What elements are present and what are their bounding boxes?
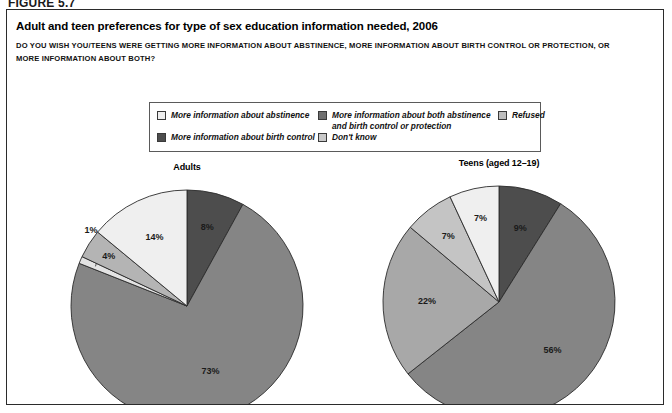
pie-slice-label: 22% (418, 296, 436, 306)
pie-slice-label: 14% (145, 232, 163, 242)
pie-svg (379, 182, 619, 405)
pie-slice-callout-label: 1% (84, 225, 97, 235)
pie-slice-label: 56% (544, 345, 562, 355)
pie-slice-label: 8% (201, 222, 214, 232)
legend-item-refused: Refused (498, 110, 545, 121)
legend-label-dont-know: Don't know (332, 132, 376, 143)
legend-swatch-birth-control (157, 133, 166, 142)
pie-chart-teens: Teens (aged 12–19) 9%56%22%7%7% (379, 158, 619, 405)
legend-label-birth-control: More information about birth control (171, 132, 315, 143)
pie-canvas-adults: 8%73%1%4%14% (67, 186, 307, 405)
pie-slice-label: 73% (202, 366, 220, 376)
legend-item-birth-control: More information about birth control (157, 132, 315, 143)
legend-label-abstinence: More information about abstinence (171, 110, 309, 121)
legend-item-both: More information about both abstinence a… (318, 110, 491, 131)
pie-slice-label: 4% (102, 251, 115, 261)
pie-caption-teens: Teens (aged 12–19) (379, 158, 619, 168)
pie-slice-label: 7% (442, 231, 455, 241)
figure-frame: Adult and teen preferences for type of s… (6, 9, 664, 405)
legend-label-both: More information about both abstinence a… (332, 110, 491, 131)
legend-label-refused: Refused (512, 110, 545, 121)
pie-caption-adults: Adults (67, 162, 307, 172)
chart-legend: More information about abstinence More i… (149, 102, 541, 152)
survey-question-text: DO YOU WISH YOU/TEENS WERE GETTING MORE … (16, 40, 630, 65)
legend-swatch-both (318, 111, 327, 120)
legend-item-dont-know: Don't know (318, 132, 376, 143)
legend-swatch-refused (498, 111, 507, 120)
legend-item-abstinence: More information about abstinence (157, 110, 309, 121)
legend-swatch-dont-know (318, 133, 327, 142)
pie-slice-label: 9% (514, 223, 527, 233)
pie-slice-label: 7% (474, 213, 487, 223)
page-title: Adult and teen preferences for type of s… (16, 20, 438, 32)
pie-canvas-teens: 9%56%22%7%7% (379, 182, 619, 405)
pie-svg (67, 186, 307, 405)
pie-chart-adults: Adults 8%73%1%4%14% (67, 162, 307, 405)
legend-swatch-abstinence (157, 111, 166, 120)
